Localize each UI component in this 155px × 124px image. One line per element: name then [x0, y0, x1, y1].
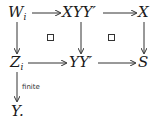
- node-z-i: Zi: [10, 55, 23, 75]
- node-w-base: W: [8, 3, 23, 21]
- node-w-i: Wi: [8, 5, 26, 25]
- arrow-label-finite: finite: [22, 83, 40, 91]
- node-x: X: [138, 5, 149, 20]
- node-s: S: [138, 55, 148, 70]
- node-y: Y.: [11, 104, 24, 119]
- node-z-base: Z: [10, 53, 20, 71]
- node-w-sub: i: [23, 12, 26, 22]
- node-xyy-prime: XYY′: [62, 5, 96, 20]
- node-z-sub: i: [20, 62, 23, 72]
- pullback-square-left: [47, 34, 54, 41]
- pullback-square-right: [108, 34, 115, 41]
- node-yy-prime: YY′: [69, 55, 92, 70]
